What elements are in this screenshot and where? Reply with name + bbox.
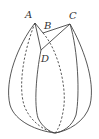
- label-C: C: [69, 10, 77, 21]
- outer-right-curve: [55, 24, 91, 133]
- geometry-figure: A B C D: [0, 0, 99, 139]
- solid-diagram: A B C D: [0, 0, 99, 139]
- label-D: D: [40, 53, 49, 64]
- label-B: B: [43, 20, 51, 31]
- label-A: A: [24, 9, 32, 20]
- inner-right-curve: [55, 24, 78, 133]
- hidden-right-meridian: [43, 33, 64, 133]
